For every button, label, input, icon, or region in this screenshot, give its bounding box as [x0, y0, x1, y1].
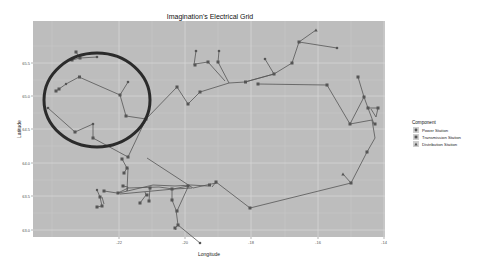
legend-label: Power Station: [422, 128, 449, 133]
chart: Imagination's Electrical Grid: [0, 0, 479, 269]
y-tick-label: 65.0: [22, 94, 31, 99]
square-icon: [415, 136, 418, 139]
circle-icon: [415, 129, 418, 132]
legend-label: Transmission Station: [422, 135, 462, 140]
y-tick-label: 63.0: [22, 228, 31, 233]
y-tick-label: 64.5: [22, 127, 31, 132]
legend: Component Power Station Transmission Sta…: [412, 120, 462, 147]
legend-label: Distribution Station: [422, 142, 458, 147]
chart-title: Imagination's Electrical Grid: [167, 13, 254, 21]
x-tick-label: -22: [116, 240, 123, 245]
x-tick-label: -20: [182, 240, 189, 245]
legend-title: Component: [412, 120, 436, 125]
x-tick-label: -16: [315, 240, 322, 245]
y-tick-label: 64.0: [22, 161, 31, 166]
y-axis-label: Latitude: [16, 120, 22, 138]
x-axis-label: Longitude: [198, 251, 220, 257]
y-tick-label: 63.5: [22, 194, 31, 199]
y-tick-label: 65.5: [22, 61, 31, 66]
x-tick-label: -18: [248, 240, 255, 245]
x-tick-label: -14: [381, 240, 388, 245]
